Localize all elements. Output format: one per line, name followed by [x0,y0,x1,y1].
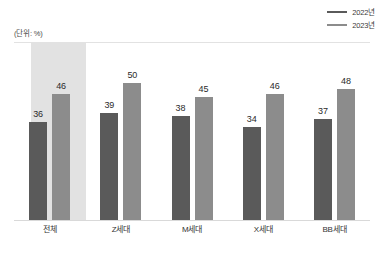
bar-value-3-2022: 34 [247,114,257,125]
x-axis-baseline [14,220,370,221]
x-label-4: BB세대 [299,224,370,235]
bar-value-4-2023: 48 [341,76,351,87]
bar-group-3: 34 46 [228,43,299,220]
bar-wrap-0-2023: 46 [52,43,70,220]
bar-wrap-1-2023: 50 [123,43,141,220]
bar-4-2023[interactable] [337,89,355,220]
bar-group-1: 39 50 [85,43,156,220]
unit-note: (단위: %) [14,29,42,39]
bar-value-0-2022: 36 [33,109,43,120]
bar-value-4-2022: 37 [318,106,328,117]
legend-label-2022: 2022년 [352,8,375,17]
bar-groups: 36 46 39 50 38 [14,43,370,220]
chart-legend: 2022년 2023년 [327,7,375,30]
bar-0-2023[interactable] [52,94,70,220]
bar-1-2022[interactable] [100,113,118,220]
x-label-2: M세대 [156,224,227,235]
legend-item-2023[interactable]: 2023년 [327,20,375,30]
bar-0-2022[interactable] [29,122,47,220]
bar-group-2: 38 45 [156,43,227,220]
bar-wrap-4-2023: 48 [337,43,355,220]
bar-group-4: 37 48 [299,43,370,220]
legend-label-2023: 2023년 [352,21,375,30]
bar-value-1-2023: 50 [127,70,137,81]
bar-wrap-2-2023: 45 [195,43,213,220]
bar-wrap-0-2022: 36 [29,43,47,220]
x-label-3: X세대 [228,224,299,235]
bar-3-2022[interactable] [243,127,261,220]
legend-item-2022[interactable]: 2022년 [327,7,375,17]
bar-value-3-2023: 46 [270,81,280,92]
bar-4-2022[interactable] [314,119,332,220]
bar-value-0-2023: 46 [56,81,66,92]
x-label-0: 전체 [14,224,85,235]
bar-wrap-4-2022: 37 [314,43,332,220]
bar-value-2-2023: 45 [199,84,209,95]
legend-line-swatch-2023 [327,24,347,26]
bar-2-2023[interactable] [195,97,213,220]
x-label-1: Z세대 [85,224,156,235]
bar-group-0: 36 46 [14,43,85,220]
bar-1-2023[interactable] [123,83,141,220]
bar-value-1-2022: 39 [104,100,114,111]
bar-2-2022[interactable] [172,116,190,220]
bar-wrap-3-2022: 34 [243,43,261,220]
bar-wrap-1-2022: 39 [100,43,118,220]
bar-wrap-3-2023: 46 [266,43,284,220]
bar-value-2-2022: 38 [176,103,186,114]
bar-wrap-2-2022: 38 [172,43,190,220]
plot-area: 36 46 39 50 38 [14,42,370,221]
bar-3-2023[interactable] [266,94,284,220]
bar-chart: 2022년 2023년 (단위: %) 36 46 39 [0,0,383,253]
legend-line-swatch-2022 [327,11,347,13]
x-axis-labels: 전체 Z세대 M세대 X세대 BB세대 [14,224,370,235]
